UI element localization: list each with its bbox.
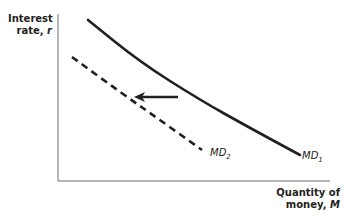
y-axis-label-line2: rate, r — [8, 25, 52, 37]
y-axis-label-line1: Interest — [8, 13, 52, 25]
md2-label: MD2 — [210, 147, 231, 161]
md1-label: MD1 — [302, 150, 323, 164]
y-axis-label: Interest rate, r — [8, 13, 52, 37]
x-axis-label-line2: money, M — [250, 199, 340, 211]
x-axis-label-line1: Quantity of — [250, 187, 340, 199]
md1-curve — [88, 20, 300, 155]
md2-curve — [72, 57, 202, 150]
x-axis-label: Quantity of money, M — [250, 187, 340, 211]
shift-arrow — [134, 92, 178, 102]
